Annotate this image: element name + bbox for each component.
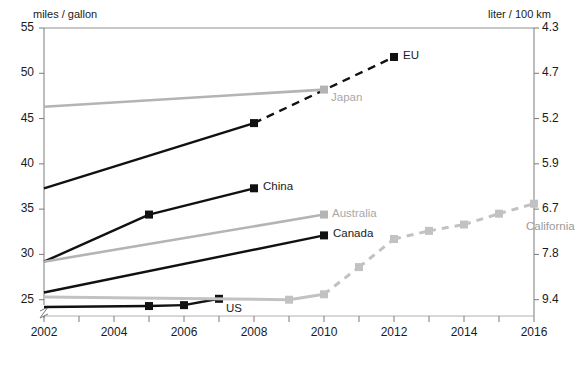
series-marker-eu [390,53,398,61]
series-marker-canada [320,231,328,239]
y-axis-label-right: 9.4 [542,292,572,306]
y-axis-label-right: 5.2 [542,111,572,125]
series-marker-california [425,227,433,235]
y-axis-label-left: 35 [8,201,34,215]
series-line-california [289,294,324,299]
y-axis-label-left: 55 [8,20,34,34]
series-marker-california [285,296,293,304]
x-axis-label: 2006 [164,325,204,339]
series-line-california [44,297,289,300]
series-label-canada: Canada [333,227,373,239]
series-marker-california [390,235,398,243]
series-marker-us [180,301,188,309]
y-axis-label-left: 25 [8,292,34,306]
series-marker-california [530,200,538,208]
series-marker-california [495,210,503,218]
series-marker-japan [320,86,328,94]
series-line-us [149,305,184,306]
series-line-california [429,225,464,231]
series-label-australia: Australia [332,207,377,219]
series-line-japan [44,90,324,107]
series-label-eu: EU [403,49,419,61]
y-axis-label-right: 6.7 [542,201,572,215]
series-line-us [44,306,149,307]
series-label-california: California [526,220,575,232]
series-line-eu [44,123,254,188]
series-line-australia [44,215,324,262]
series-marker-us [145,302,153,310]
series-line-california [359,239,394,267]
series-marker-china [145,211,153,219]
series-line-california [394,231,429,239]
x-axis-label: 2004 [94,325,134,339]
fuel-economy-chart: miles / gallon liter / 100 km 5550454035… [0,0,587,367]
x-axis-label: 2012 [374,325,414,339]
series-line-china [44,215,149,262]
y-axis-label-right: 4.7 [542,65,572,79]
series-line-california [464,214,499,225]
x-axis-label: 2016 [514,325,554,339]
y-axis-label-left: 50 [8,65,34,79]
series-marker-eu [250,119,258,127]
series-line-california [324,267,359,294]
y-axis-label-right: 5.9 [542,156,572,170]
series-marker-california [460,221,468,229]
y-axis-label-left: 45 [8,111,34,125]
y-axis-label-left: 30 [8,246,34,260]
x-axis-label: 2002 [24,325,64,339]
y-axis-label-left: 40 [8,156,34,170]
x-axis-label: 2010 [304,325,344,339]
series-line-china [149,188,254,214]
series-line-california [499,204,534,214]
series-label-china: China [263,180,293,192]
x-axis-label: 2014 [444,325,484,339]
y-axis-label-right: 4.3 [542,20,572,34]
series-marker-china [250,184,258,192]
series-marker-california [355,263,363,271]
series-marker-australia [320,211,328,219]
series-label-japan: Japan [331,91,362,103]
plot-area [0,0,587,367]
y-axis-label-right: 7.8 [542,246,572,260]
x-axis-label: 2008 [234,325,274,339]
series-label-us: US [226,302,242,314]
series-marker-california [320,290,328,298]
